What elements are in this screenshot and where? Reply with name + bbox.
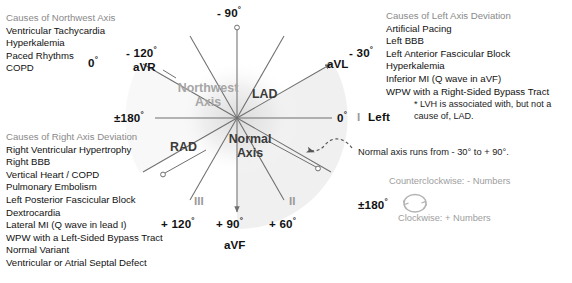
panel-lad-heading: Causes of Left Axis Deviation (386, 10, 549, 23)
list-item: Ventricular or Atrial Septal Defect (6, 257, 163, 270)
list-item: Right BBB (6, 156, 163, 169)
list-item: Dextrocardia (6, 207, 163, 220)
axis-endpoint-minus90 (235, 25, 240, 30)
angle-label-plus-minus-180: ±180° (114, 110, 144, 124)
list-item: Normal Variant (6, 244, 163, 257)
angle-label-plus90: + 90° (216, 216, 243, 230)
list-item: WPW with a Right-Sided Bypass Tract (386, 86, 549, 99)
lad-footnote: * LVH is associated with, but not a caus… (414, 99, 551, 122)
lead-label-aVF: aVF (224, 238, 245, 251)
lad-footnote-line1: * LVH is associated with, but not a (414, 99, 551, 111)
list-item: Vertical Heart / COPD (6, 169, 163, 182)
list-item: Right Ventricular Hypertrophy (6, 144, 163, 157)
panel-left-axis-deviation: Causes of Left Axis Deviation Artificial… (386, 10, 549, 98)
rotation-center-label: ±180° (358, 197, 388, 211)
list-item: Lateral MI (Q wave in lead I) (6, 219, 163, 232)
angle-label-minus30: - 30° (349, 45, 373, 59)
counterclockwise-note: Counterclockwise: - Numbers (389, 176, 510, 186)
normal-axis-range-note: Normal axis runs from - 30° to + 90°. (358, 147, 509, 157)
zone-northwest-line2: Axis (167, 95, 249, 109)
angle-label-zero: 0° (337, 110, 347, 124)
lead-label-aVR: aVR (133, 60, 156, 73)
list-item: Ventricular Tachycardia (6, 25, 115, 38)
zone-label-lad: LAD (252, 87, 277, 101)
lead-label-aVL: aVL (327, 57, 348, 70)
list-item: Left Anterior Fascicular Block (386, 48, 549, 61)
lead-label-II: II (289, 194, 295, 207)
clockwise-note: Clockwise: + Numbers (398, 213, 491, 223)
zone-label-normal-axis: Normal Axis (213, 132, 287, 160)
zone-label-rad: RAD (170, 140, 197, 154)
zone-normal-line1: Normal (213, 132, 287, 146)
list-item: Inferior MI (Q wave in aVF) (386, 73, 549, 86)
panel-northwest-heading: Causes of Northwest Axis (6, 12, 115, 25)
panel-rad-heading: Causes of Right Axis Deviation (6, 131, 163, 144)
list-item: Artificial Pacing (386, 23, 549, 36)
zone-normal-line2: Axis (213, 146, 287, 160)
list-item: Pulmonary Embolism (6, 181, 163, 194)
angle-label-plus120: + 120° (161, 216, 195, 230)
zone-label-northwest-axis: Northwest Axis (167, 81, 249, 109)
label-left: Left (368, 110, 390, 123)
angle-label-zero-upper: 0° (88, 55, 98, 69)
diagram-canvas: Causes of Northwest Axis Ventricular Tac… (0, 0, 572, 283)
list-item: Paced Rhythms (6, 50, 115, 63)
angle-label-minus90: - 90° (217, 5, 241, 19)
list-item: WPW with a Left-Sided Bypass Tract (6, 232, 163, 245)
lead-label-I: I (357, 110, 360, 123)
list-item: Hyperkalemia (6, 37, 115, 50)
list-item: COPD (6, 62, 115, 75)
zone-northwest-line1: Northwest (167, 81, 249, 95)
list-item: Left BBB (386, 35, 549, 48)
angle-label-minus120: - 120° (126, 45, 157, 59)
angle-label-plus60: + 60° (269, 216, 296, 230)
panel-right-axis-deviation: Causes of Right Axis Deviation Right Ven… (6, 131, 163, 270)
list-item: Left Posterior Fascicular Block (6, 194, 163, 207)
list-item: Hyperkalemia (386, 60, 549, 73)
lad-footnote-line2: cause of, LAD. (414, 111, 551, 123)
rotation-direction-icon (404, 195, 427, 213)
lead-label-III: III (194, 194, 204, 207)
panel-northwest-axis: Causes of Northwest Axis Ventricular Tac… (6, 12, 115, 75)
